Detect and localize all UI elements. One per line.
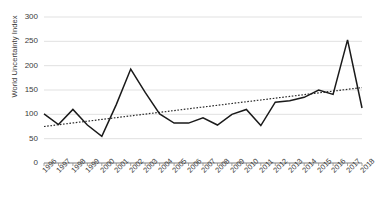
trend-line-series (44, 88, 362, 127)
y-axis-tick-label: 0 (12, 159, 38, 167)
y-axis-tick-label: 100 (12, 110, 38, 118)
gridlines (44, 17, 362, 163)
y-axis-tick-label: 50 (12, 135, 38, 143)
y-axis-tick-label: 150 (12, 86, 38, 94)
y-axis-tick-label: 250 (12, 37, 38, 45)
y-axis-tick-label: 300 (12, 13, 38, 21)
data-line-series (44, 40, 362, 136)
y-axis-tick-label: 200 (12, 62, 38, 70)
